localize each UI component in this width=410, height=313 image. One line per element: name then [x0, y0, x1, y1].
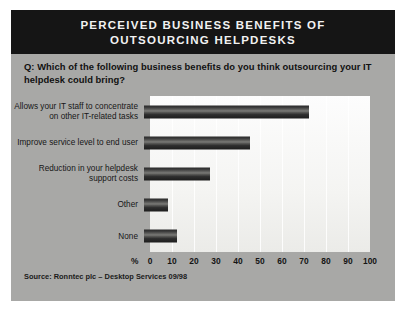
category-label: None: [11, 232, 144, 242]
bar-4: [144, 230, 177, 243]
x-tick-0: 0: [148, 256, 153, 266]
category-label: Improve service level to end user: [11, 138, 144, 148]
bar-2: [144, 167, 210, 180]
x-tick-50: 50: [255, 256, 264, 266]
x-axis: % 0 10 20 30 40 50 60 70 80 90 100: [11, 254, 395, 270]
chart-source-note: Source: Ronntec plc – Desktop Services 0…: [24, 272, 187, 281]
x-tick-40: 40: [233, 256, 242, 266]
chart-figure: PERCEIVED BUSINESS BENEFITS OF OUTSOURCI…: [0, 0, 410, 313]
category-label: Other: [11, 200, 144, 210]
bar-track: [144, 221, 395, 252]
category-label: Reduction in your helpdesk support costs: [11, 164, 144, 183]
bar-track: [144, 190, 395, 221]
bar-3: [144, 199, 168, 212]
x-tick-100: 100: [363, 256, 377, 266]
chart-row: Allows your IT staff to concentrate on o…: [11, 96, 395, 127]
bar-track: [144, 158, 395, 189]
category-label: Allows your IT staff to concentrate on o…: [11, 102, 144, 121]
x-tick-60: 60: [277, 256, 286, 266]
chart-title-line-2: OUTSOURCING HELPDESKS: [110, 33, 296, 48]
x-tick-10: 10: [167, 256, 176, 266]
bar-track: [144, 96, 395, 127]
chart-title-banner: PERCEIVED BUSINESS BENEFITS OF OUTSOURCI…: [11, 10, 395, 54]
x-tick-80: 80: [321, 256, 330, 266]
bar-0: [144, 105, 309, 118]
chart-row: Reduction in your helpdesk support costs: [11, 158, 395, 189]
chart-row: Other: [11, 190, 395, 221]
chart-question-text: Q: Which of the following business benef…: [24, 61, 374, 86]
bar-1: [144, 136, 250, 149]
chart-row: Improve service level to end user: [11, 127, 395, 158]
x-tick-70: 70: [299, 256, 308, 266]
x-tick-30: 30: [211, 256, 220, 266]
chart-row: None: [11, 221, 395, 252]
chart-title-line-1: PERCEIVED BUSINESS BENEFITS OF: [80, 18, 325, 33]
x-axis-unit-label: %: [131, 256, 138, 266]
chart-plot-region: Allows your IT staff to concentrate on o…: [11, 96, 395, 271]
x-tick-90: 90: [343, 256, 352, 266]
chart-rows: Allows your IT staff to concentrate on o…: [11, 96, 395, 252]
x-tick-20: 20: [189, 256, 198, 266]
bar-track: [144, 127, 395, 158]
